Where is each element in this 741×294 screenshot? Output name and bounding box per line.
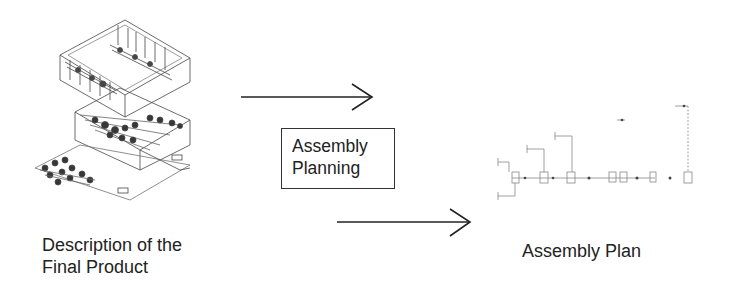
product-label-line1: Description of the xyxy=(42,234,182,256)
product-description-label: Description of the Final Product xyxy=(42,234,182,278)
product-label-line2: Final Product xyxy=(42,256,182,278)
assembly-plan-label: Assembly Plan xyxy=(522,240,641,262)
